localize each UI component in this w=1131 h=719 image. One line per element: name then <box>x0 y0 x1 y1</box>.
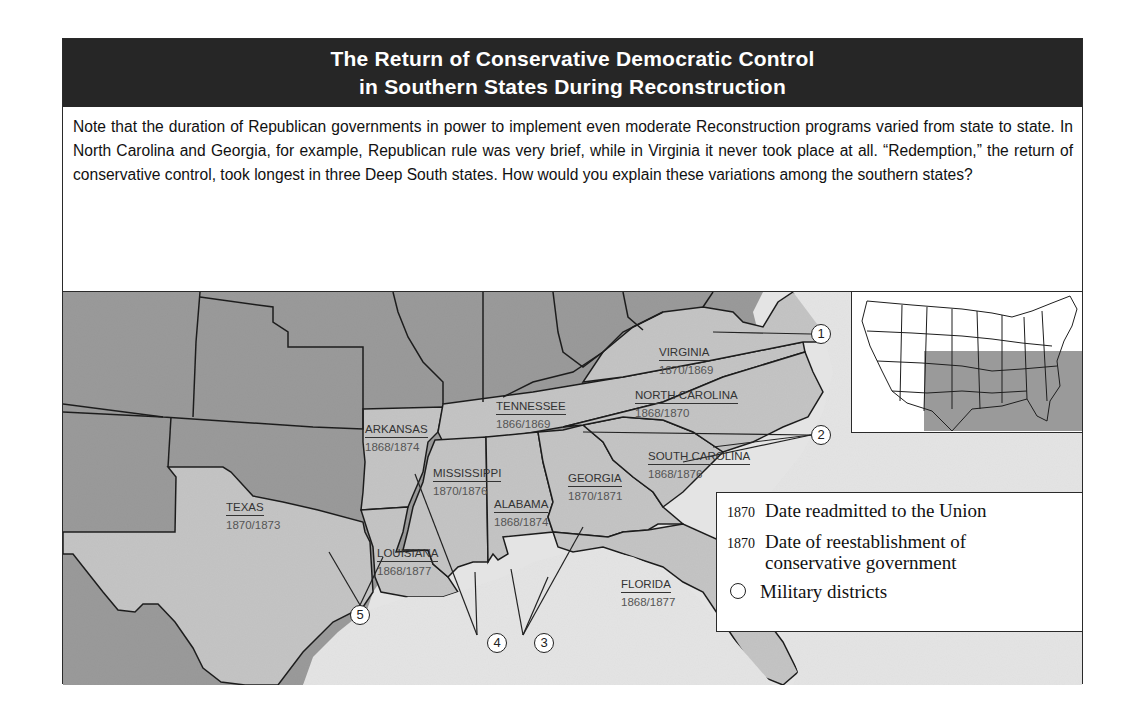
state-label-south-carolina: SOUTH CAROLINA 1868/1876 <box>648 449 750 481</box>
state-label-alabama: ALABAMA 1868/1874 <box>494 497 548 529</box>
legend-conservative-cont: conservative government <box>727 551 1082 575</box>
state-label-florida: FLORIDA 1868/1877 <box>621 577 675 609</box>
state-label-louisiana: LOUISIANA 1868/1877 <box>377 546 438 578</box>
state-label-arkansas: ARKANSAS 1868/1874 <box>365 422 428 454</box>
state-label-texas: TEXAS 1870/1873 <box>226 500 280 532</box>
legend-districts: Military districts <box>727 580 1082 604</box>
title-line-1: The Return of Conservative Democratic Co… <box>63 45 1082 73</box>
map-figure: The Return of Conservative Democratic Co… <box>62 38 1083 684</box>
military-district-4: 4 <box>487 633 507 653</box>
locator-inset-map <box>851 291 1082 433</box>
title-line-2: in Southern States During Reconstruction <box>63 73 1082 101</box>
map-legend: 1870 Date readmitted to the Union 1870 D… <box>716 492 1082 632</box>
state-label-tennessee: TENNESSEE 1866/1869 <box>496 399 566 431</box>
military-district-3: 3 <box>534 633 554 653</box>
caption-note: Note that the duration of Republican gov… <box>73 115 1073 187</box>
state-label-north-carolina: NORTH CAROLINA 1868/1870 <box>635 388 738 420</box>
us-outline-icon <box>852 291 1082 431</box>
reconstruction-map: VIRGINIA 1870/1869 NORTH CAROLINA 1868/1… <box>63 291 1082 685</box>
circle-icon <box>730 583 746 599</box>
state-label-mississippi: MISSISSIPPI 1870/1876 <box>433 466 501 498</box>
state-label-virginia: VIRGINIA 1870/1869 <box>659 345 713 377</box>
state-label-georgia: GEORGIA 1870/1871 <box>568 471 622 503</box>
figure-title: The Return of Conservative Democratic Co… <box>63 39 1082 107</box>
military-district-1: 1 <box>811 324 831 344</box>
military-district-2: 2 <box>811 425 831 445</box>
military-district-5: 5 <box>350 605 370 625</box>
legend-readmitted: 1870 Date readmitted to the Union <box>727 499 1082 525</box>
